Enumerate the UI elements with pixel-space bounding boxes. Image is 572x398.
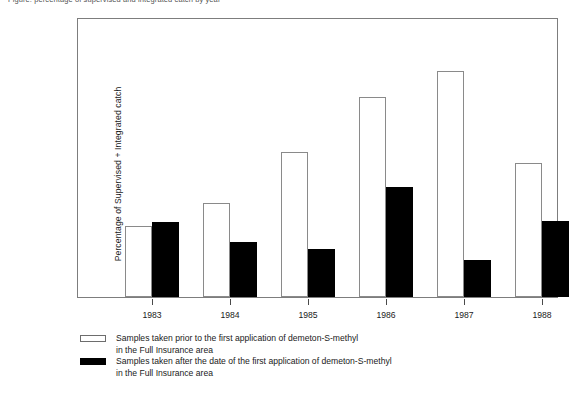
x-tick-label-1987: 1987	[434, 310, 494, 320]
bar-prior-1983	[125, 226, 152, 297]
x-tick-label-1985: 1985	[278, 310, 338, 320]
legend-entry-after: Samples taken after the date of the firs…	[80, 356, 550, 368]
bar-chart: Percentage of Supervised + Integrated ca…	[0, 0, 566, 326]
x-tick-1985	[308, 299, 309, 305]
bar-after-1987	[464, 260, 491, 296]
x-tick-label-1983: 1983	[122, 310, 182, 320]
legend-label-after-line2: in the Full Insurance area	[80, 368, 550, 380]
legend-label-prior-line1: Samples taken prior to the first applica…	[116, 333, 358, 343]
chart-legend: Samples taken prior to the first applica…	[80, 333, 550, 379]
bar-prior-1987	[437, 71, 464, 297]
x-tick-1987	[464, 299, 465, 305]
bar-prior-1986	[359, 97, 386, 297]
x-tick-1986	[386, 299, 387, 305]
legend-label-after-line1: Samples taken after the date of the firs…	[116, 356, 392, 366]
x-tick-1984	[230, 299, 231, 305]
bar-prior-1984	[203, 203, 230, 297]
legend-label-prior-line2: in the Full Insurance area	[80, 345, 550, 357]
x-tick-1983	[152, 299, 153, 305]
x-tick-label-1984: 1984	[200, 310, 260, 320]
plot-frame: Percentage of Supervised + Integrated ca…	[77, 18, 558, 298]
bar-after-1986	[386, 187, 413, 297]
y-axis-label: Percentage of Supervised + Integrated ca…	[113, 44, 123, 304]
legend-swatch-after-icon	[80, 358, 106, 365]
x-tick-label-1988: 1988	[512, 310, 572, 320]
bar-after-1988	[542, 221, 569, 296]
x-tick-label-1986: 1986	[356, 310, 416, 320]
bar-after-1983	[152, 222, 179, 296]
bar-after-1984	[230, 242, 257, 297]
x-tick-1988	[542, 299, 543, 305]
legend-swatch-prior-icon	[80, 335, 106, 342]
bar-prior-1988	[515, 163, 542, 297]
legend-entry-prior: Samples taken prior to the first applica…	[80, 333, 550, 345]
bar-prior-1985	[281, 152, 308, 296]
bar-after-1985	[308, 249, 335, 296]
